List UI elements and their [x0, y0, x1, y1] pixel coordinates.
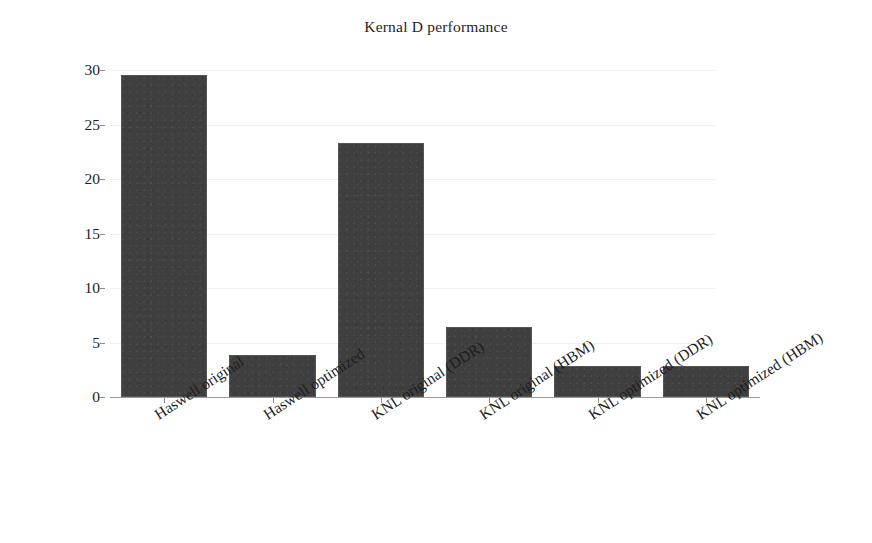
y-tick-label: 30 — [54, 62, 100, 78]
y-tick-mark — [100, 397, 105, 398]
x-tick-mark — [381, 398, 382, 403]
x-tick-mark — [598, 398, 599, 403]
bar[interactable] — [663, 366, 750, 397]
chart-title: Kernal D performance — [0, 18, 872, 36]
bar[interactable] — [229, 355, 316, 397]
chart-figure: Kernal D performance Walltime (sec) 0510… — [0, 0, 872, 543]
y-tick-mark — [100, 125, 105, 126]
y-axis-tick-labels: 051015202530 — [48, 70, 100, 397]
x-tick-mark — [706, 398, 707, 403]
y-tick-mark — [100, 288, 105, 289]
y-tick-label: 20 — [54, 171, 100, 187]
y-tick-label: 15 — [54, 226, 100, 242]
y-tick-label: 0 — [54, 389, 100, 405]
y-tick-mark — [100, 234, 105, 235]
y-tick-mark — [100, 343, 105, 344]
y-tick-mark — [100, 70, 105, 71]
bar[interactable] — [446, 327, 533, 397]
bar[interactable] — [121, 75, 208, 397]
y-tick-label: 10 — [54, 280, 100, 296]
x-tick-mark — [164, 398, 165, 403]
bar[interactable] — [554, 366, 641, 397]
x-tick-mark — [489, 398, 490, 403]
gridline — [110, 70, 715, 71]
y-tick-mark — [100, 179, 105, 180]
plot-area — [110, 70, 760, 397]
x-tick-mark — [273, 398, 274, 403]
y-tick-label: 5 — [54, 335, 100, 351]
x-axis-line — [110, 397, 760, 398]
bar[interactable] — [338, 143, 425, 397]
y-tick-label: 25 — [54, 117, 100, 133]
